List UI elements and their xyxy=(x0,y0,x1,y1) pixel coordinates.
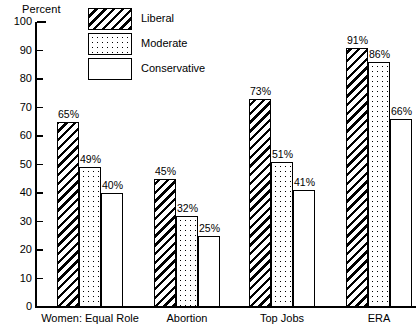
bar-value-label: 41% xyxy=(294,177,315,188)
bar-liberal xyxy=(346,48,368,307)
bar-value-label: 91% xyxy=(347,35,368,46)
bar-liberal xyxy=(154,179,176,307)
bar-value-label: 45% xyxy=(155,166,176,177)
y-tick-label: 20 xyxy=(0,244,32,255)
plot-area: 65%49%40%45%32%25%73%51%41%91%86%66% xyxy=(35,22,416,307)
bar-conservative xyxy=(198,236,220,307)
bar-group: 65%49%40% xyxy=(57,22,123,307)
bar-moderate xyxy=(79,167,101,307)
y-tick-label: 50 xyxy=(0,159,32,170)
y-tick-label: 10 xyxy=(0,273,32,284)
y-tick-label: 80 xyxy=(0,73,32,84)
y-tick-label: 30 xyxy=(0,216,32,227)
y-tick-label: 90 xyxy=(0,45,32,56)
bar-value-label: 65% xyxy=(58,109,79,120)
bar-group: 91%86%66% xyxy=(346,22,412,307)
bar-value-label: 25% xyxy=(199,223,220,234)
bar-conservative xyxy=(390,119,412,307)
y-tick-label: 40 xyxy=(0,187,32,198)
bar-moderate xyxy=(271,162,293,307)
y-axis-title: Percent xyxy=(22,3,61,15)
bar-chart: Percent 1009080706050403020100 Liberal M… xyxy=(0,0,418,330)
bar-value-label: 40% xyxy=(102,180,123,191)
y-tick-label: 100 xyxy=(0,16,32,27)
bar-value-label: 49% xyxy=(80,154,101,165)
bar-value-label: 66% xyxy=(391,106,412,117)
bar-moderate xyxy=(176,216,198,307)
bar-group: 45%32%25% xyxy=(154,22,220,307)
bar-liberal xyxy=(249,99,271,307)
bar-value-label: 73% xyxy=(250,86,271,97)
bar-value-label: 86% xyxy=(369,49,390,60)
y-tick-label: 60 xyxy=(0,130,32,141)
bar-value-label: 51% xyxy=(272,149,293,160)
bar-group: 73%51%41% xyxy=(249,22,315,307)
y-tick-label: 0 xyxy=(0,301,32,312)
bar-value-label: 32% xyxy=(177,203,198,214)
bar-liberal xyxy=(57,122,79,307)
bar-conservative xyxy=(101,193,123,307)
bar-conservative xyxy=(293,190,315,307)
bar-moderate xyxy=(368,62,390,307)
y-tick-label: 70 xyxy=(0,102,32,113)
category-label: ERA xyxy=(309,312,418,325)
